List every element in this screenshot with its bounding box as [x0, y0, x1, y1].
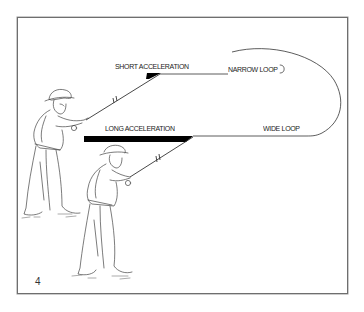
narrow-loop-bracket-icon	[279, 64, 285, 74]
narrow-loop-text: NARROW LOOP	[228, 65, 278, 74]
figure-number: 4	[35, 276, 41, 287]
wide-loop-label: WIDE LOOP	[263, 124, 300, 133]
rod-upper	[86, 74, 160, 120]
angler-upper-icon	[22, 89, 88, 218]
fly-casting-illustration	[0, 0, 364, 312]
long-acceleration-bar	[84, 136, 193, 142]
short-acceleration-label: SHORT ACCELERATION	[115, 62, 189, 71]
rod-lower	[130, 137, 193, 177]
long-acceleration-label: LONG ACCELERATION	[105, 124, 175, 133]
angler-lower-icon	[72, 145, 132, 279]
narrow-loop-label: NARROW LOOP	[228, 65, 281, 74]
